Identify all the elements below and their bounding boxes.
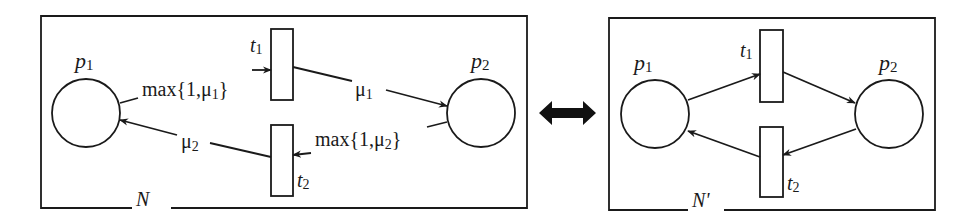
transition-t1[interactable] [271,29,293,100]
arc-t1-p2-weight: μ1 [355,78,373,102]
net-n: N p1 p2 t1 t2 max{1,μ1} μ1 max{1,μ2} μ2 [41,16,527,210]
net-n-prime-name: N' [691,189,710,211]
net-n-prime: N' p1 p2 t1 t2 [609,18,935,211]
double-arrow-icon [539,101,596,125]
arc-p2-t2-stub [427,122,447,127]
arc-t2-p1 [688,131,760,157]
arc-p1-t1 [688,74,760,100]
transition-t1[interactable] [760,30,783,102]
place-p2-label: p2 [877,50,898,75]
arc-t2-p1-seg1 [210,143,271,157]
transition-t2[interactable] [271,125,293,196]
arc-t1-p2 [783,72,855,103]
transition-t2-label: t2 [787,172,800,195]
place-p2[interactable] [855,80,923,148]
arc-p1-t1-stub [120,98,138,103]
arc-t2-p1-seg2 [120,120,177,135]
transition-t1-label: t1 [740,39,753,62]
place-p1-label: p1 [632,50,653,75]
place-p2-label: p2 [469,48,490,73]
net-n-name: N [135,188,151,210]
transition-t1-label: t1 [250,34,263,57]
arc-p1-t1-weight: max{1,μ1} [142,78,228,102]
place-p1[interactable] [52,79,120,147]
arc-t1-p2-seg2 [386,90,447,106]
place-p1[interactable] [621,80,689,148]
arc-p2-t2-weight: max{1,μ2} [315,128,401,152]
transition-t2[interactable] [760,127,783,197]
arc-p2-t2-arrow [293,153,311,155]
place-p2[interactable] [447,79,515,147]
arc-t1-p2-seg1 [293,67,352,81]
petri-net-diagram: N p1 p2 t1 t2 max{1,μ1} μ1 max{1,μ2} μ2 [0,0,967,224]
transition-t2-label: t2 [297,169,310,192]
arc-t2-p1-weight: μ2 [181,130,199,154]
place-p1-label: p1 [73,48,94,73]
arc-p2-t2 [783,129,856,155]
